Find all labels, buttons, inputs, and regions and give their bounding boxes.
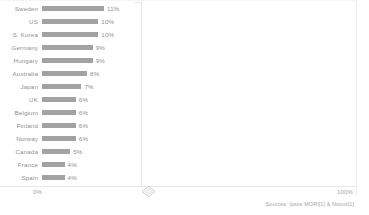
bar-category-label: Spain: [0, 171, 38, 184]
bar-track: 4%: [38, 158, 141, 171]
bar-row: France4%: [0, 158, 141, 171]
bar-category-label: Hungary: [0, 54, 38, 67]
bar-row: Finland6%: [0, 119, 141, 132]
bar: [42, 45, 93, 50]
bar: [42, 71, 87, 76]
bar: [42, 19, 98, 24]
source-citation: Sources: Ipsos MORI[1] & Novus[1]: [0, 201, 356, 207]
bar-row: Germany9%: [0, 41, 141, 54]
bar-track: 9%: [38, 54, 141, 67]
bar-track: 5%: [38, 145, 141, 158]
bar: [42, 84, 81, 89]
bar-track: 10%: [38, 28, 141, 41]
bar: [42, 136, 76, 141]
bar-value-label: 9%: [96, 54, 105, 67]
bar: [42, 6, 104, 11]
frame-right-border: [356, 0, 357, 196]
bar-track: 8%: [38, 67, 141, 80]
bar-value-label: 5%: [73, 145, 82, 158]
x-axis-line: [0, 186, 356, 187]
bar-value-label: 9%: [96, 41, 105, 54]
frame-top-border: [0, 0, 356, 1]
bar-category-label: UK: [0, 93, 38, 106]
bar: [42, 175, 65, 180]
bar: [42, 32, 98, 37]
bar-value-label: 6%: [79, 93, 88, 106]
bar-track: 10%: [38, 15, 141, 28]
bar-row: Norway6%: [0, 132, 141, 145]
bar-category-label: Japan: [0, 80, 38, 93]
bar-value-label: 4%: [68, 158, 77, 171]
bar-value-label: 4%: [68, 171, 77, 184]
bar-track: 6%: [38, 93, 141, 106]
horizontal-bar-chart: Sweden11%US10%S. Korea10%Germany9%Hungar…: [0, 0, 369, 215]
bar-row: Spain4%: [0, 171, 141, 184]
bar-value-label: 10%: [101, 15, 114, 28]
bar-value-label: 7%: [84, 80, 93, 93]
bar: [42, 123, 76, 128]
x-axis-tick-min: 0%: [33, 189, 42, 195]
bar-row: Belgium6%: [0, 106, 141, 119]
bar-rows-container: Sweden11%US10%S. Korea10%Germany9%Hungar…: [0, 2, 141, 184]
bar-category-label: Germany: [0, 41, 38, 54]
bar-value-label: 8%: [90, 67, 99, 80]
bar-row: UK6%: [0, 93, 141, 106]
bar-value-label: 6%: [79, 106, 88, 119]
panel-divider-line: [141, 2, 142, 186]
bar-category-label: S. Korea: [0, 28, 38, 41]
x-axis-tick-max: 100%: [337, 189, 353, 195]
bar-row: Sweden11%: [0, 2, 141, 15]
bar-track: 11%: [38, 2, 141, 15]
bar-row: Hungary9%: [0, 54, 141, 67]
bar-track: 4%: [38, 171, 141, 184]
bar-category-label: Australia: [0, 67, 38, 80]
bar-category-label: Belgium: [0, 106, 38, 119]
bar: [42, 97, 76, 102]
bar-row: Canada5%: [0, 145, 141, 158]
bar: [42, 162, 65, 167]
bar-track: 6%: [38, 106, 141, 119]
bar-category-label: Norway: [0, 132, 38, 145]
bar: [42, 58, 93, 63]
bar-track: 7%: [38, 80, 141, 93]
bar-value-label: 11%: [107, 2, 119, 15]
bar-category-label: US: [0, 15, 38, 28]
bar-row: Japan7%: [0, 80, 141, 93]
bar-track: 6%: [38, 132, 141, 145]
bar: [42, 110, 76, 115]
bar-category-label: Finland: [0, 119, 38, 132]
bar-track: 9%: [38, 41, 141, 54]
bar-value-label: 6%: [79, 132, 88, 145]
bar-row: S. Korea10%: [0, 28, 141, 41]
bar-category-label: Canada: [0, 145, 38, 158]
bar-value-label: 6%: [79, 119, 88, 132]
bar-category-label: France: [0, 158, 38, 171]
bar: [42, 149, 70, 154]
bar-track: 6%: [38, 119, 141, 132]
bar-category-label: Sweden: [0, 2, 38, 15]
bar-value-label: 10%: [101, 28, 114, 41]
bar-row: US10%: [0, 15, 141, 28]
bar-row: Australia8%: [0, 67, 141, 80]
